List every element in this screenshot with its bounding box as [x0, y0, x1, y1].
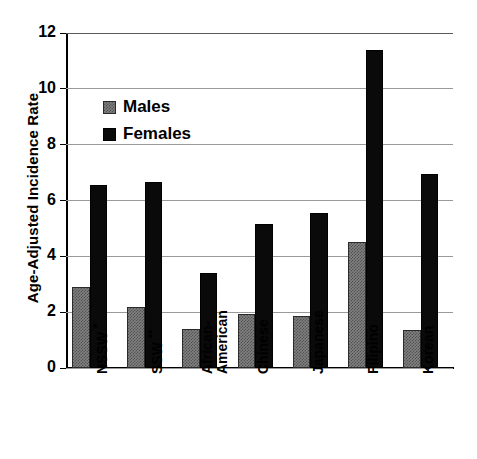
y-tick-2: 2 — [10, 302, 56, 320]
bar-males-chinese — [238, 314, 256, 368]
legend-item-females: Females — [103, 122, 191, 146]
gridline-10 — [66, 88, 453, 89]
y-tick-6: 6 — [10, 191, 56, 209]
legend: Males Females — [103, 95, 191, 149]
y-tick-8: 8 — [10, 135, 56, 153]
y-tick-label-12: 12 — [10, 23, 56, 41]
y-tick-label-4: 4 — [10, 246, 56, 264]
chart-figure: Age-Adjusted Incidence Rate 024681012 Ma… — [0, 0, 477, 459]
y-axis-line — [66, 33, 68, 369]
y-tick-10: 10 — [10, 79, 56, 97]
y-tick-label-10: 10 — [10, 79, 56, 97]
bar-males-africanamerican — [182, 329, 200, 368]
y-tick-label-8: 8 — [10, 135, 56, 153]
y-tick-mark-0 — [60, 368, 66, 369]
y-tick-mark-6 — [60, 200, 66, 201]
gridline-6 — [66, 200, 453, 201]
legend-swatch-males-icon — [103, 101, 116, 114]
y-tick-mark-12 — [60, 33, 66, 34]
y-tick-label-6: 6 — [10, 191, 56, 209]
y-tick-label-2: 2 — [10, 302, 56, 320]
y-tick-mark-8 — [60, 144, 66, 145]
x-tick-label-japanese: Japanese — [311, 254, 351, 374]
y-tick-12: 12 — [10, 23, 56, 41]
x-tick-label-korean: Korean — [421, 254, 461, 374]
x-tick-label-ssw: SSW ** — [145, 254, 185, 374]
y-tick-mark-2 — [60, 312, 66, 313]
y-tick-0: 0 — [10, 358, 56, 376]
x-tick-label-chinese: Chinese — [256, 254, 296, 374]
x-tick-label-nssw: NSSW * — [90, 254, 130, 374]
legend-label-females: Females — [123, 124, 191, 144]
y-tick-mark-10 — [60, 88, 66, 89]
y-tick-4: 4 — [10, 246, 56, 264]
legend-swatch-females-icon — [103, 128, 116, 141]
y-tick-label-0: 0 — [10, 358, 56, 376]
x-tick-label-filipino: Filipino — [366, 254, 406, 374]
y-tick-mark-4 — [60, 256, 66, 257]
x-tick-label-african: African-American — [200, 254, 240, 374]
legend-label-males: Males — [123, 97, 170, 117]
legend-item-males: Males — [103, 95, 191, 119]
bar-males-nssw — [72, 287, 90, 368]
gridline-12 — [66, 33, 453, 34]
